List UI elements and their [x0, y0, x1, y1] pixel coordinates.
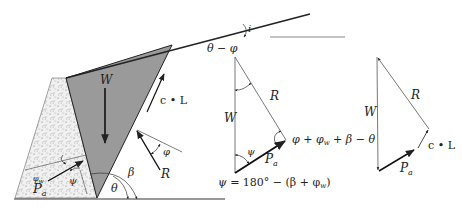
slope-angle-label: i [248, 23, 251, 34]
main-diagram: i θ − φ W c • L φ R β θ φw Pa ψ [14, 14, 345, 199]
polygon1-top-angle-arc [235, 83, 251, 90]
polygon2-resultant-side [378, 58, 429, 129]
polygon2-weight-side [377, 57, 378, 170]
polygon1-tip-angle-arc [274, 131, 281, 145]
theta-minus-phi-label: θ − φ [207, 42, 238, 55]
force-polygon-1: W R ψ Pa φ + φw + β − θ ψ = 180° − (β + … [218, 57, 375, 190]
theta-label: θ [111, 182, 118, 195]
psi-formula-label: ψ = 180° − (β + φw) [218, 176, 330, 190]
polygon1-psi-label: ψ [247, 146, 255, 157]
cohesion-force-label: c • L [160, 94, 188, 107]
psi-label-wall: ψ [69, 175, 77, 186]
polygon2-cohesion-label: c • L [428, 139, 456, 152]
resultant-phi-arc [151, 144, 160, 154]
resultant-normal-line [137, 130, 182, 152]
polygon2-cohesion-side [418, 130, 428, 148]
resultant-label: R [160, 167, 170, 181]
polygon2-resultant-label: R [410, 88, 420, 102]
resultant-phi-label: φ [163, 146, 170, 157]
polygon2-weight-label: W [364, 105, 378, 119]
backfill-slope-line [66, 14, 310, 78]
polygon2-active-thrust-label: Pa [399, 161, 413, 177]
polygon1-tip-angle-label: φ + φw + β − θ [292, 133, 375, 147]
resultant-arrow [137, 131, 160, 170]
coulomb-wedge-figure: i θ − φ W c • L φ R β θ φw Pa ψ [0, 0, 462, 210]
weight-label: W [100, 73, 114, 87]
beta-label: β [127, 166, 134, 179]
polygon1-active-thrust-label: Pa [264, 152, 278, 168]
force-polygon-2: W R Pa c • L [364, 57, 456, 177]
polygon1-resultant-label: R [269, 89, 279, 103]
polygon1-weight-label: W [224, 111, 238, 125]
